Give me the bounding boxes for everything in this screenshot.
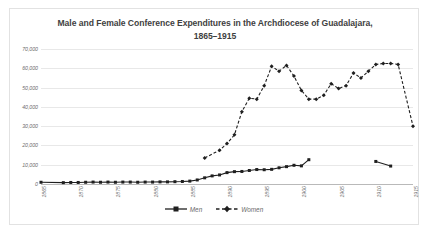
x-axis-tick-label: 1900 [301, 186, 307, 198]
x-axis-tick-label: 1895 [264, 186, 270, 198]
data-point-marker [226, 171, 229, 174]
series-women [203, 61, 415, 159]
chart-container: Male and Female Conference Expenditures … [9, 8, 419, 225]
data-point-marker [270, 64, 274, 68]
data-point-marker [203, 176, 206, 179]
data-point-marker [285, 165, 288, 168]
data-point-marker [240, 170, 243, 173]
data-point-marker [218, 173, 221, 176]
legend-label: Men [190, 206, 202, 213]
data-point-marker [278, 166, 281, 169]
data-point-marker [233, 170, 236, 173]
series-line [205, 63, 413, 157]
data-point-marker [151, 181, 154, 184]
chart-title: Male and Female Conference Expenditures … [22, 17, 408, 42]
y-axis-tick-label: 50,000 [22, 85, 38, 91]
data-point-marker [159, 180, 162, 183]
data-series-layer [41, 49, 413, 184]
data-point-marker [203, 156, 207, 160]
y-axis-tick-label: 70,000 [22, 46, 38, 52]
data-point-marker [262, 84, 266, 88]
data-point-marker [92, 181, 95, 184]
x-axis-tick-label: 1870 [78, 186, 84, 198]
data-point-marker [396, 62, 400, 66]
data-point-marker [411, 124, 415, 128]
data-point-marker [196, 178, 199, 181]
x-axis-tick-label: 1875 [115, 186, 121, 198]
data-point-marker [307, 158, 310, 161]
data-point-marker [129, 181, 132, 184]
legend-label: Women [241, 206, 263, 213]
data-point-marker [166, 180, 169, 183]
data-point-marker [322, 93, 326, 97]
legend-item-women[interactable]: Women [216, 205, 263, 213]
series-line [41, 160, 309, 183]
chart-legend: MenWomen [10, 205, 418, 213]
data-point-marker [173, 180, 176, 183]
data-point-marker [84, 181, 87, 184]
data-point-marker [225, 142, 229, 146]
series-line [376, 161, 391, 166]
y-axis-tick-label: 0 [35, 181, 38, 187]
y-axis-tick-label: 60,000 [22, 65, 38, 71]
y-axis-tick-label: 30,000 [22, 123, 38, 129]
data-point-marker [389, 61, 393, 65]
x-axis-tick-label: 1910 [376, 186, 382, 198]
data-point-marker [62, 181, 65, 184]
x-axis-tick-label: 1880 [153, 186, 159, 198]
data-point-marker [188, 180, 191, 183]
data-point-marker [255, 97, 259, 101]
data-point-marker [69, 181, 72, 184]
data-point-marker [307, 97, 311, 101]
data-point-marker [381, 61, 385, 65]
data-point-marker [99, 181, 102, 184]
data-point-marker [374, 62, 378, 66]
dashed-line-swatch-icon [216, 205, 238, 213]
data-point-marker [144, 181, 147, 184]
x-axis-tick-label: 1905 [339, 186, 345, 198]
chart-title-line-2: 1865–1915 [22, 30, 408, 43]
data-point-marker [344, 84, 348, 88]
data-point-marker [263, 168, 266, 171]
data-point-marker [121, 181, 124, 184]
solid-line-swatch-icon [165, 205, 187, 213]
data-point-marker [106, 181, 109, 184]
x-axis-tick-label: 1915 [413, 186, 419, 198]
x-axis-tick-label: 1865 [41, 186, 47, 198]
data-point-marker [240, 110, 244, 114]
data-point-marker [300, 164, 303, 167]
data-point-marker [374, 160, 377, 163]
y-axis-tick-label: 20,000 [22, 142, 38, 148]
data-point-marker [211, 174, 214, 177]
series-men [40, 158, 393, 184]
data-point-marker [247, 96, 251, 100]
chart-title-line-1: Male and Female Conference Expenditures … [22, 17, 408, 30]
plot-area: 010,00020,00030,00040,00050,00060,00070,… [41, 49, 413, 184]
data-point-marker [270, 168, 273, 171]
data-point-marker [389, 165, 392, 168]
x-axis-tick-label: 1885 [190, 186, 196, 198]
y-axis-tick-label: 40,000 [22, 104, 38, 110]
data-point-marker [351, 71, 355, 75]
data-point-marker [40, 181, 43, 184]
data-point-marker [218, 148, 222, 152]
data-point-marker [248, 169, 251, 172]
data-point-marker [255, 168, 258, 171]
data-point-marker [314, 97, 318, 101]
y-axis-tick-label: 10,000 [22, 162, 38, 168]
data-point-marker [77, 181, 80, 184]
legend-item-men[interactable]: Men [165, 205, 202, 213]
data-point-marker [292, 164, 295, 167]
x-axis-tick-label: 1890 [227, 186, 233, 198]
data-point-marker [181, 180, 184, 183]
data-point-marker [136, 181, 139, 184]
data-point-marker [114, 181, 117, 184]
